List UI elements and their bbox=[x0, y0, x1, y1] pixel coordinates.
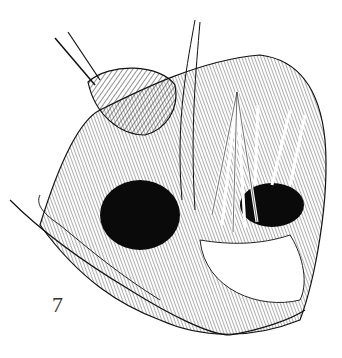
dark-orifice-left bbox=[100, 180, 180, 250]
dark-orifice-right bbox=[240, 183, 304, 227]
forceps-line-1 bbox=[55, 38, 95, 85]
figure-number: 7 bbox=[52, 292, 63, 318]
